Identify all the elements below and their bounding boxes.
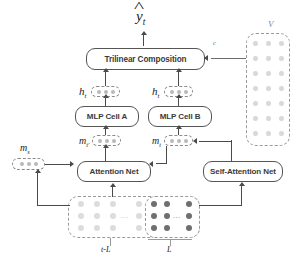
memory-dot bbox=[253, 56, 258, 61]
vector-dot bbox=[170, 139, 174, 143]
memory-dot bbox=[279, 41, 284, 46]
memory-dot bbox=[279, 101, 284, 106]
connector-attention-to-ma bbox=[105, 147, 106, 161]
sequence-dot-history bbox=[78, 201, 84, 207]
module-trilinear-label: Trilinear Composition bbox=[104, 55, 186, 64]
sequence-dot-recent bbox=[151, 225, 157, 231]
memory-dot bbox=[266, 56, 271, 61]
m-far-left-symbol-group: ms bbox=[20, 143, 30, 155]
module-self-attention-label: Self-Attention Net bbox=[210, 167, 276, 176]
vector-dot bbox=[20, 162, 24, 166]
connector-trilinear-to-output bbox=[143, 34, 144, 46]
trilinear-side-label: c bbox=[213, 40, 216, 47]
sequence-dot-recent bbox=[151, 213, 157, 219]
label-recent-span: L bbox=[167, 246, 171, 254]
module-attention-label: Attention Net bbox=[90, 167, 139, 176]
label-history-span: t-L bbox=[101, 246, 110, 254]
output-label: yt bbox=[136, 9, 145, 27]
vector-dot bbox=[111, 90, 115, 94]
memory-dot bbox=[253, 41, 258, 46]
sequence-dot-recent bbox=[186, 213, 192, 219]
figure-canvas: yt Trilinear Composition c ht ht bbox=[0, 0, 300, 270]
output-symbol: y bbox=[136, 9, 143, 24]
vector-dot bbox=[27, 162, 31, 166]
sequence-dot-history bbox=[110, 201, 116, 207]
module-self-attention-net[interactable]: Self-Attention Net bbox=[203, 161, 283, 182]
h-a-symbol-group: ht bbox=[79, 86, 86, 100]
vector-dot bbox=[105, 139, 109, 143]
memory-dot bbox=[266, 71, 271, 76]
memory-dot bbox=[253, 131, 258, 136]
vector-dot bbox=[184, 139, 188, 143]
h-b-subscript: t bbox=[158, 92, 160, 99]
m-b-subscript: t bbox=[159, 141, 161, 148]
connector-hb-to-trilinear bbox=[178, 71, 179, 86]
connector-grid-right-v bbox=[241, 186, 242, 206]
m-b-symbol-group: mt bbox=[152, 136, 161, 148]
h-a-subscript: t bbox=[85, 92, 87, 99]
connector-selfattn-to-mb bbox=[199, 141, 232, 142]
memory-dot bbox=[279, 86, 284, 91]
vector-m-b bbox=[164, 135, 193, 146]
sequence-dot-recent bbox=[164, 225, 170, 231]
output-subscript: t bbox=[143, 17, 146, 27]
memory-dot bbox=[253, 116, 258, 121]
sequence-dot-recent bbox=[164, 213, 170, 219]
arrowhead-attention-bottom bbox=[110, 183, 116, 187]
connector-mb-down bbox=[166, 146, 167, 164]
module-attention-net[interactable]: Attention Net bbox=[77, 161, 151, 182]
module-mlp-cell-a[interactable]: MLP Cell A bbox=[75, 106, 139, 127]
arrowhead-ha-bottom bbox=[103, 94, 109, 98]
connector-ms-to-attention bbox=[45, 164, 71, 165]
vector-dot bbox=[34, 162, 38, 166]
sequence-dot-recent bbox=[151, 201, 157, 207]
arrowhead-mlpb-in bbox=[176, 125, 182, 129]
connector-mlpa-to-ha bbox=[105, 97, 106, 106]
module-mlp-cell-b[interactable]: MLP Cell B bbox=[148, 106, 212, 127]
vector-dot bbox=[177, 90, 181, 94]
module-trilinear-composition[interactable]: Trilinear Composition bbox=[86, 48, 205, 70]
connector-grid-right-h bbox=[199, 205, 242, 206]
memory-dot bbox=[253, 86, 258, 91]
memory-dot bbox=[266, 131, 271, 136]
sequence-dot-recent bbox=[186, 201, 192, 207]
memory-dot bbox=[266, 86, 271, 91]
sequence-dot-history bbox=[110, 225, 116, 231]
sequence-dot-history bbox=[136, 201, 142, 207]
vector-dot bbox=[184, 90, 188, 94]
memory-dot bbox=[279, 116, 284, 121]
sequence-dot-history bbox=[136, 225, 142, 231]
arrowhead-ha-top bbox=[103, 68, 109, 72]
sequence-dot-history bbox=[110, 213, 116, 219]
sequence-dot-recent bbox=[186, 225, 192, 231]
arrowhead-trilinear-right bbox=[204, 55, 208, 61]
h-b-symbol-group: ht bbox=[152, 86, 159, 100]
arrowhead-mb-right bbox=[193, 138, 197, 144]
arrowhead-selfattention-bottom bbox=[239, 182, 245, 186]
vector-dot bbox=[104, 90, 108, 94]
m-a-subscript: t' bbox=[86, 141, 89, 148]
arrowhead-hb-top bbox=[176, 68, 182, 72]
memory-dot bbox=[279, 131, 284, 136]
connector-grid-left-h bbox=[38, 205, 70, 206]
sequence-dot-history bbox=[78, 213, 84, 219]
sequence-dot-history bbox=[94, 225, 100, 231]
vector-dot bbox=[170, 90, 174, 94]
connector-memory-to-trilinear bbox=[211, 58, 247, 59]
arrowhead-attention-left bbox=[70, 161, 74, 167]
arrowhead-attention-right bbox=[149, 161, 153, 167]
vector-dot bbox=[98, 139, 102, 143]
arrowhead-output bbox=[141, 31, 147, 35]
memory-dot bbox=[253, 71, 258, 76]
module-mlp-a-label: MLP Cell A bbox=[87, 112, 127, 121]
memory-dot bbox=[266, 101, 271, 106]
vector-dot bbox=[177, 139, 181, 143]
memory-dot bbox=[253, 101, 258, 106]
sequence-dot-recent bbox=[164, 201, 170, 207]
m-s-subscript: s bbox=[27, 148, 29, 155]
connector-mlpb-to-hb bbox=[178, 97, 179, 106]
connector-grid-left-v bbox=[37, 172, 38, 206]
arrowhead-ma-bottom bbox=[103, 144, 109, 148]
connector-ha-to-trilinear bbox=[105, 71, 106, 86]
connector-mb-into-attention bbox=[156, 163, 167, 164]
